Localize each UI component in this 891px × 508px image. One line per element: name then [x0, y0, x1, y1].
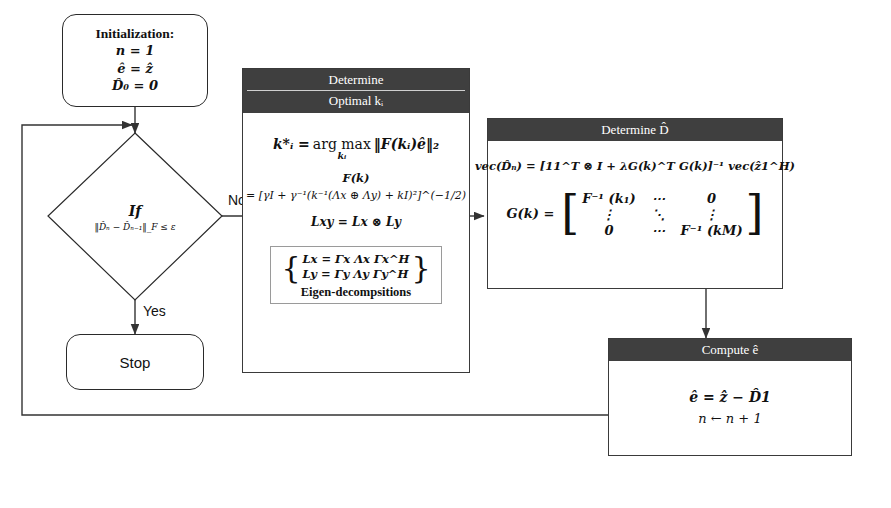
determine-D-header: Determine D̂	[488, 119, 782, 141]
node-determine-optimal-k[interactable]: Determine Optimal kᵢ k*ᵢ = arg max kᵢ ‖F…	[242, 68, 470, 373]
node-stop[interactable]: Stop	[66, 334, 204, 390]
determine-k-header: Determine Optimal kᵢ	[243, 69, 469, 113]
eigen-decomposition-box: { Lx = Γx Λx Γx^H Ly = Γy Λy Γy^H } Eige…	[270, 246, 441, 304]
matrix-cell-r1c3: 0	[707, 191, 716, 206]
eigen-caption: Eigen-decompsitions	[301, 285, 411, 300]
argmax-lhs: k*ᵢ =	[273, 135, 310, 154]
gk-matrix-block: G(k) = [ F⁻¹ (k₁) ⋯ 0 ⋮ ⋱ ⋮ 0 ⋯ F⁻¹ (kM)…	[506, 191, 763, 238]
flowchart-canvas: No Yes Initialization: n = 1 ê = ẑ D̂₀ =…	[0, 0, 891, 508]
argmax-subscript: kᵢ	[337, 150, 346, 163]
lxy-equation: Lxy = Lx ⊗ Ly	[311, 214, 401, 230]
matrix-bracket-right-icon: ]	[746, 196, 764, 232]
matrix-cell-r1c2: ⋯	[652, 191, 665, 206]
fk-label: F(k)	[343, 171, 370, 187]
matrix-cell-r1c1: F⁻¹ (k₁)	[582, 191, 635, 206]
matrix-cell-r2c3: ⋮	[705, 207, 718, 222]
stop-label: Stop	[120, 354, 151, 371]
vec-equation: vec(D̂ₙ) = [11^T ⊗ I + λG(k)^T G(k)]⁻¹ v…	[475, 159, 795, 175]
matrix-cell-r2c1: ⋮	[602, 207, 615, 222]
argmax-equation: k*ᵢ = arg max kᵢ ‖F(kᵢ)ê‖₂	[273, 135, 439, 164]
eigen-brace-group: { Lx = Γx Λx Γx^H Ly = Γy Λy Γy^H }	[281, 252, 430, 283]
gk-matrix-grid: F⁻¹ (k₁) ⋯ 0 ⋮ ⋱ ⋮ 0 ⋯ F⁻¹ (kM)	[582, 191, 742, 238]
brace-right-icon: }	[411, 254, 430, 281]
matrix-cell-r2c2: ⋱	[652, 207, 665, 222]
determine-k-body: k*ᵢ = arg max kᵢ ‖F(kᵢ)ê‖₂ F(k) = [γI + …	[243, 113, 469, 373]
eigen-line-y: Ly = Γy Λy Γy^H	[303, 267, 410, 283]
matrix-cell-r3c3: F⁻¹ (kM)	[681, 223, 743, 238]
determine-k-header-line1: Determine	[247, 72, 465, 88]
brace-left-icon: {	[281, 254, 300, 281]
node-compute-e[interactable]: Compute ê ê = ẑ − D̂1 n ← n + 1	[608, 338, 852, 456]
fk-block: F(k) = [γI + γ⁻¹(k⁻¹(Λx ⊕ Λy) + kI)²]^(−…	[246, 171, 466, 203]
argmax-rhs: ‖F(kᵢ)ê‖₂	[374, 135, 439, 154]
compute-e-line1: ê = ẑ − D̂1	[689, 388, 771, 407]
compute-e-body: ê = ẑ − D̂1 n ← n + 1	[609, 361, 851, 455]
compute-e-line2: n ← n + 1	[698, 410, 761, 428]
determine-k-header-line2: Optimal kᵢ	[247, 90, 465, 109]
fk-expression: = [γI + γ⁻¹(k⁻¹(Λx ⊕ Λy) + kI)²]^(−1/2)	[246, 189, 466, 204]
eigen-line-x: Lx = Γx Λx Γx^H	[303, 252, 410, 268]
matrix-bracket-left-icon: [	[561, 196, 579, 232]
determine-D-body: vec(D̂ₙ) = [11^T ⊗ I + λG(k)^T G(k)]⁻¹ v…	[488, 141, 782, 288]
matrix-cell-r3c2: ⋯	[652, 223, 665, 238]
node-determine-D[interactable]: Determine D̂ vec(D̂ₙ) = [11^T ⊗ I + λG(k…	[487, 118, 783, 289]
decision-diamond[interactable]	[48, 133, 222, 300]
compute-e-header: Compute ê	[609, 339, 851, 361]
matrix-cell-r3c1: 0	[604, 223, 613, 238]
gk-label: G(k) =	[506, 205, 554, 223]
